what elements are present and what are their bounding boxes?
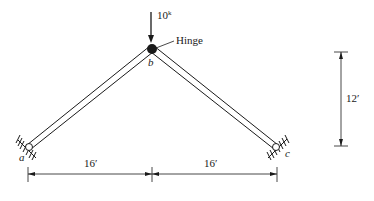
load-arrow-icon (148, 12, 154, 43)
member-bc (151, 46, 278, 149)
left-span-label: 16′ (84, 157, 97, 169)
node-label-a: a (19, 151, 25, 163)
hinge-leader-line (156, 41, 174, 48)
hinge-b-icon (147, 44, 157, 54)
height-label: 12′ (346, 92, 359, 104)
frame-diagram: a c b Hinge 10k 16′ 16′ (0, 0, 374, 201)
horizontal-dimension (28, 167, 277, 182)
hinge-label: Hinge (176, 34, 203, 46)
load-label: 10k (157, 9, 172, 21)
member-ab (27, 46, 153, 149)
right-span-label: 16′ (204, 157, 217, 169)
node-label-c: c (285, 147, 290, 159)
node-label-b: b (148, 56, 154, 68)
